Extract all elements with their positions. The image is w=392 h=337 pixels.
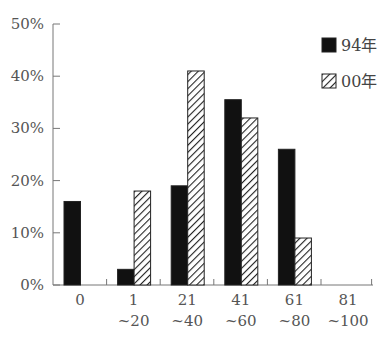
y-tick-label: 10%: [11, 224, 44, 242]
bar-94-41~60: [225, 100, 242, 285]
bar-00-1~20: [134, 191, 151, 285]
x-tick-label-range: ~60: [225, 312, 257, 330]
bar-94-21~40: [171, 186, 188, 285]
x-tick-label-range: ~100: [327, 312, 368, 330]
bar-94-0: [64, 201, 81, 285]
x-tick-label-range: ~40: [171, 312, 203, 330]
bar-00-21~40: [188, 71, 205, 285]
x-tick-label: 21: [178, 291, 197, 309]
legend-swatch-00: [322, 74, 336, 88]
bars: [64, 71, 311, 285]
bar-chart: 0%10%20%30%40%50%01~2021~4041~6061~8081~…: [0, 0, 392, 337]
bar-94-1~20: [118, 269, 135, 285]
y-tick-label: 40%: [11, 67, 44, 85]
x-tick-label: 1: [129, 291, 139, 309]
y-tick-label: 50%: [11, 15, 44, 33]
bar-00-41~60: [241, 118, 257, 285]
x-tick-label-range: ~20: [118, 312, 150, 330]
legend-swatch-94: [322, 38, 336, 52]
y-tick-label: 0%: [20, 276, 44, 294]
x-tick-label-range: ~80: [279, 312, 311, 330]
y-tick-label: 20%: [11, 172, 44, 190]
bar-00-61~80: [295, 238, 312, 285]
x-tick-label: 0: [75, 291, 85, 309]
x-tick-label: 41: [231, 291, 250, 309]
legend-label: 00年: [341, 72, 377, 91]
x-tick-label: 81: [338, 291, 357, 309]
x-tick-label: 61: [285, 291, 304, 309]
legend-label: 94年: [341, 36, 377, 55]
y-tick-label: 30%: [11, 119, 44, 137]
bar-94-61~80: [278, 149, 295, 285]
legend: 94年00年: [322, 36, 377, 91]
